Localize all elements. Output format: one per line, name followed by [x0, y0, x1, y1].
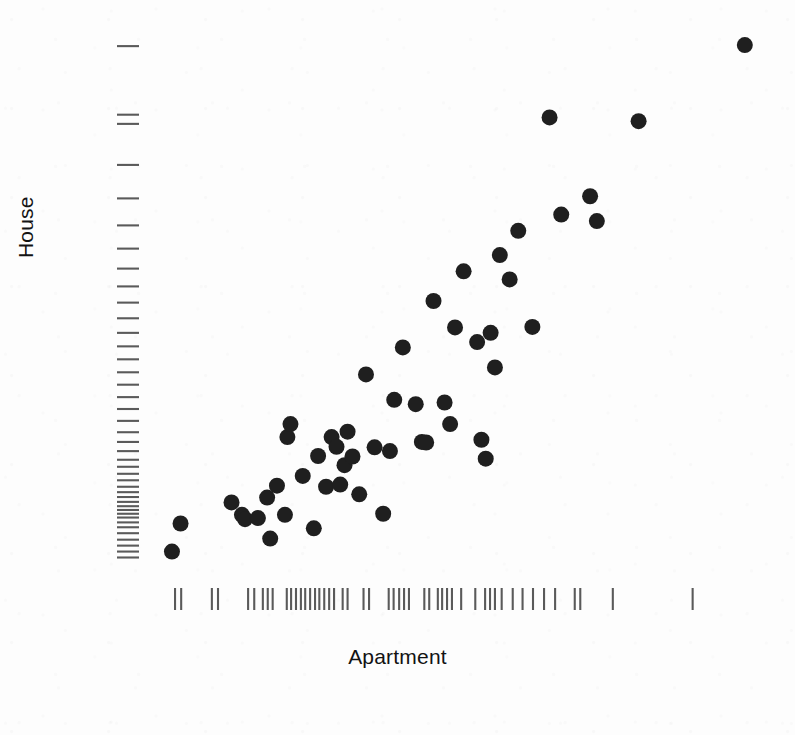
data-point: [553, 207, 569, 223]
data-point: [386, 392, 402, 408]
data-point: [456, 263, 472, 279]
data-point: [437, 395, 453, 411]
data-point: [631, 113, 647, 129]
data-point: [306, 520, 322, 536]
y-axis-label: House: [14, 196, 38, 258]
data-point: [447, 319, 463, 335]
data-point: [382, 443, 398, 459]
scatter-plot-figure: House Apartment: [0, 0, 795, 735]
data-point: [329, 439, 345, 455]
data-point: [224, 494, 240, 510]
data-point: [310, 448, 326, 464]
data-point: [582, 188, 598, 204]
data-point: [318, 479, 334, 495]
data-point: [487, 359, 503, 375]
data-point: [473, 432, 489, 448]
data-point: [589, 213, 605, 229]
x-axis-rug-marks: [175, 588, 693, 610]
data-point: [295, 468, 311, 484]
x-axis-label: Apartment: [0, 645, 795, 669]
data-point-group: [164, 37, 753, 560]
data-point: [269, 478, 285, 494]
data-point: [344, 449, 360, 465]
data-point: [426, 293, 442, 309]
data-point: [375, 506, 391, 522]
data-point: [164, 544, 180, 560]
data-point: [340, 424, 356, 440]
data-point: [282, 416, 298, 432]
data-point: [277, 507, 293, 523]
data-point: [502, 271, 518, 287]
data-point: [408, 396, 424, 412]
data-point: [492, 247, 508, 263]
data-point: [737, 37, 753, 53]
data-point: [173, 515, 189, 531]
data-point: [469, 334, 485, 350]
data-point: [542, 109, 558, 125]
data-point: [351, 486, 367, 502]
plot-canvas: [0, 0, 795, 735]
data-point: [262, 531, 278, 547]
data-point: [250, 510, 266, 526]
data-point: [524, 319, 540, 335]
data-point: [478, 451, 494, 467]
data-point: [483, 325, 499, 341]
data-point: [367, 439, 383, 455]
data-point: [418, 434, 434, 450]
y-axis-rug-marks: [117, 46, 139, 557]
data-point: [332, 477, 348, 493]
data-point: [358, 366, 374, 382]
data-point: [395, 339, 411, 355]
data-point: [442, 416, 458, 432]
data-point: [510, 223, 526, 239]
